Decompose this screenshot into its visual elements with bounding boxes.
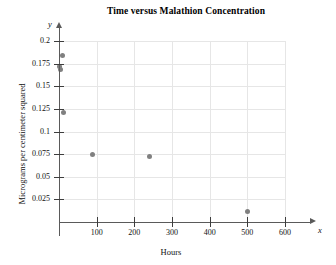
- y-axis-tick-label: 0.175: [10, 59, 50, 68]
- x-axis-tick-label: 300: [152, 228, 192, 237]
- data-point: [245, 209, 250, 214]
- y-axis-tick: [54, 154, 64, 155]
- x-axis-tick-label: 500: [227, 228, 267, 237]
- gridline-vertical: [172, 41, 173, 222]
- y-axis-tick-label: 0.15: [10, 81, 50, 90]
- gridline-vertical: [210, 41, 211, 222]
- x-axis-tick-label: 600: [265, 228, 305, 237]
- plot-area: [59, 41, 285, 222]
- data-point: [90, 152, 95, 157]
- y-axis-tick: [54, 64, 64, 65]
- y-axis-arrow-icon: [56, 22, 62, 28]
- y-axis-tick-label: 0.2: [10, 36, 50, 45]
- chart-title: Time versus Malathion Concentration: [56, 6, 316, 16]
- y-axis-tick-label: 0.05: [10, 172, 50, 181]
- y-axis-tick: [54, 132, 64, 133]
- x-axis-tick-label: 100: [77, 228, 117, 237]
- y-axis-tick: [54, 199, 64, 200]
- y-axis-tick-label: 0.125: [10, 104, 50, 113]
- gridline-vertical: [97, 41, 98, 222]
- y-axis-tick-label: 0.025: [10, 194, 50, 203]
- chart-figure: Time versus Malathion Concentration Micr…: [0, 0, 336, 265]
- x-axis-tick: [285, 217, 286, 227]
- y-axis-variable-label: y: [48, 19, 52, 29]
- x-axis-tick-label: 200: [114, 228, 154, 237]
- x-axis-tick: [134, 217, 135, 227]
- y-axis-tick-label: 0.075: [10, 149, 50, 158]
- y-axis-tick: [54, 177, 64, 178]
- data-point: [60, 53, 65, 58]
- x-axis-tick: [210, 217, 211, 227]
- x-axis-tick: [172, 217, 173, 227]
- gridline-vertical: [134, 41, 135, 222]
- gridline-vertical: [247, 41, 248, 222]
- data-point: [61, 110, 66, 115]
- gridline-vertical: [285, 41, 286, 222]
- y-axis-tick: [54, 41, 64, 42]
- x-axis-variable-label: x: [318, 225, 322, 235]
- x-axis-title: Hours: [56, 247, 286, 257]
- y-axis-title: Micrograms per centimeter squared: [17, 49, 27, 239]
- x-axis-arrow-icon: [310, 218, 316, 224]
- y-axis-tick-label: 0.1: [10, 127, 50, 136]
- x-axis-tick-label: 400: [190, 228, 230, 237]
- y-axis-tick: [54, 109, 64, 110]
- x-axis-tick: [247, 217, 248, 227]
- y-axis-tick: [54, 86, 64, 87]
- data-point: [147, 154, 152, 159]
- x-axis-tick: [97, 217, 98, 227]
